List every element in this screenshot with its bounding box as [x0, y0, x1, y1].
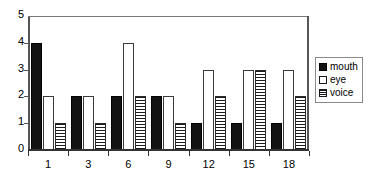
bar-voice-9 — [175, 123, 186, 150]
bar-group — [191, 16, 226, 150]
chart-legend: mouth eye voice — [315, 57, 363, 103]
bar-voice-6 — [135, 96, 146, 150]
bar-mouth-3 — [71, 96, 82, 150]
bar-chart: 012345 mouth eye voice 1369121518 — [0, 0, 371, 190]
bar-voice-12 — [215, 96, 226, 150]
y-axis-tick-label: 3 — [18, 62, 24, 73]
y-axis-tick-mark — [24, 70, 29, 71]
bar-group — [151, 16, 186, 150]
bar-mouth-6 — [111, 96, 122, 150]
legend-item-voice: voice — [319, 87, 358, 99]
bar-eye-12 — [203, 70, 214, 150]
y-axis-tick-labels: 012345 — [8, 14, 24, 150]
legend-item-mouth: mouth — [319, 61, 358, 73]
legend-swatch-voice-icon — [319, 89, 327, 97]
y-axis-tick-label: 2 — [18, 89, 24, 100]
y-axis-tick-label: 4 — [18, 35, 24, 46]
y-axis-tick-mark — [24, 43, 29, 44]
bar-eye-3 — [83, 96, 94, 150]
legend-label-mouth: mouth — [330, 62, 358, 72]
legend-swatch-mouth-icon — [319, 63, 327, 71]
x-axis-tick-label: 12 — [203, 159, 215, 170]
bar-group — [111, 16, 146, 150]
bar-voice-1 — [55, 123, 66, 150]
bar-mouth-12 — [191, 123, 202, 150]
legend-label-voice: voice — [330, 88, 353, 98]
bar-mouth-1 — [31, 43, 42, 150]
y-axis-tick-label: 1 — [18, 116, 24, 127]
legend-label-eye: eye — [330, 75, 346, 85]
legend-swatch-eye-icon — [319, 76, 327, 84]
y-axis-tick-label: 0 — [18, 143, 24, 154]
x-axis-line — [28, 149, 309, 151]
x-axis-tick-mark — [309, 151, 310, 156]
y-axis-tick-label: 5 — [18, 9, 24, 20]
x-axis-tick-mark — [148, 151, 149, 156]
bar-eye-6 — [123, 43, 134, 150]
y-axis-tick-mark — [24, 123, 29, 124]
bar-voice-15 — [255, 70, 266, 150]
x-axis-tick-mark — [108, 151, 109, 156]
bar-eye-1 — [43, 96, 54, 150]
x-axis-tick-mark — [28, 151, 29, 156]
bar-group — [31, 16, 66, 150]
x-axis-tick-label: 9 — [165, 159, 171, 170]
plot-area — [28, 16, 309, 150]
bar-group — [231, 16, 266, 150]
x-axis-tick-mark — [269, 151, 270, 156]
x-axis-tick-label: 1 — [45, 159, 51, 170]
legend-item-eye: eye — [319, 74, 358, 86]
x-axis-tick-mark — [189, 151, 190, 156]
y-axis-tick-mark — [24, 96, 29, 97]
bar-voice-3 — [95, 123, 106, 150]
x-axis-tick-label: 3 — [85, 159, 91, 170]
bar-mouth-18 — [271, 123, 282, 150]
bar-group — [271, 16, 306, 150]
x-axis-tick-mark — [229, 151, 230, 156]
x-axis-tick-label: 18 — [283, 159, 295, 170]
x-axis-tick-label: 15 — [243, 159, 255, 170]
bar-mouth-9 — [151, 96, 162, 150]
bar-group — [71, 16, 106, 150]
bar-eye-15 — [243, 70, 254, 150]
bar-mouth-15 — [231, 123, 242, 150]
x-axis-tick-mark — [68, 151, 69, 156]
x-axis-tick-label: 6 — [125, 159, 131, 170]
bar-voice-18 — [295, 96, 306, 150]
bar-eye-18 — [283, 70, 294, 150]
bar-eye-9 — [163, 96, 174, 150]
